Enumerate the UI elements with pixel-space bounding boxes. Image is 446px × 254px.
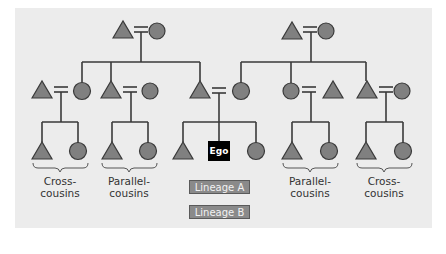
right-grandparents [241,22,366,83]
cousin-label-right: Parallel- cousins [280,175,340,199]
male-triangle-icon [190,81,210,98]
female-circle-icon [395,143,412,160]
cousin-label-left: Parallel- cousins [99,175,159,199]
brace-icon [33,163,88,172]
couple-left [101,81,158,143]
ego-label: Ego [210,146,229,156]
female-circle-icon [233,83,250,100]
legend-lineage-b: Lineage B [189,205,250,219]
male-triangle-icon [32,142,52,159]
couple-far-left [32,81,91,143]
male-triangle-icon [32,81,52,98]
cousin-braces [33,163,412,172]
male-triangle-icon [282,142,302,159]
female-circle-icon [321,143,338,160]
female-circle-icon [149,23,165,39]
legend-lineage-a: Lineage A [189,180,250,194]
male-triangle-icon [101,81,121,98]
ego-parents [183,81,256,143]
male-triangle-icon [357,81,377,98]
cousin-label-far-left: Cross- cousins [30,175,90,199]
left-grandparents [82,21,200,82]
male-triangle-icon [356,142,376,159]
male-triangle-icon [173,142,193,159]
cousin-label-far-right: Cross- cousins [354,175,414,199]
female-circle-icon [318,23,334,39]
female-circle-icon [283,83,299,99]
female-circle-icon [248,143,265,160]
female-circle-icon [140,143,157,160]
male-triangle-icon [102,142,122,159]
ego-box: Ego [208,141,230,161]
female-circle-icon [142,83,158,99]
male-triangle-icon [113,21,133,38]
female-circle-icon [74,83,91,100]
female-circle-icon [394,83,410,99]
couple-right [283,81,343,143]
couple-far-right [357,81,410,143]
male-triangle-icon [323,81,343,98]
brace-icon [283,163,338,172]
male-triangle-icon [282,22,302,39]
brace-icon [357,163,412,172]
brace-icon [102,163,157,172]
female-circle-icon [70,143,87,160]
